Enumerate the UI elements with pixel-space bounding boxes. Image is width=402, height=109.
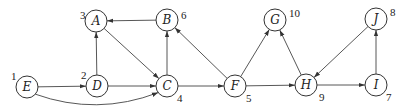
node-label: A xyxy=(91,14,101,28)
graph-canvas: E1D2A3B6C4F5G10H9I7J8 xyxy=(0,0,402,109)
order-number-label: 2 xyxy=(81,69,87,81)
order-number-label: 8 xyxy=(390,6,396,18)
node-H: H9 xyxy=(295,74,325,103)
edge-E-to-D xyxy=(38,86,86,87)
directed-graph-diagram: E1D2A3B6C4F5G10H9I7J8 xyxy=(0,0,402,109)
node-F: F5 xyxy=(224,75,252,104)
edge-J-to-H xyxy=(314,27,368,78)
node-A: A3 xyxy=(80,9,107,32)
node-label: C xyxy=(162,79,171,93)
edges-layer xyxy=(35,20,376,105)
node-label: I xyxy=(373,78,379,92)
order-number-label: 7 xyxy=(386,91,392,103)
order-number-label: 1 xyxy=(11,70,17,82)
edge-D-to-A xyxy=(96,32,97,75)
node-label: D xyxy=(91,79,102,93)
node-D: D2 xyxy=(81,69,108,97)
node-B: B6 xyxy=(156,9,187,31)
edge-F-to-H xyxy=(246,85,295,86)
node-label: E xyxy=(22,80,32,94)
order-number-label: 6 xyxy=(181,9,187,21)
edge-A-to-C xyxy=(104,28,159,78)
node-G: G10 xyxy=(264,7,301,31)
node-label: H xyxy=(300,78,312,92)
node-J: J8 xyxy=(365,6,396,30)
node-I: I7 xyxy=(365,74,392,103)
node-E: E1 xyxy=(11,70,38,98)
node-label: G xyxy=(270,13,280,27)
order-number-label: 5 xyxy=(246,92,252,104)
order-number-label: 10 xyxy=(289,7,301,19)
order-number-label: 9 xyxy=(319,91,325,103)
edge-H-to-G xyxy=(280,30,302,75)
edge-F-to-G xyxy=(241,29,270,76)
node-label: B xyxy=(162,13,172,27)
order-number-label: 4 xyxy=(177,92,183,104)
order-number-label: 3 xyxy=(80,9,86,21)
node-C: C4 xyxy=(156,75,183,104)
edge-F-to-B xyxy=(175,28,227,79)
edge-B-to-A xyxy=(107,20,156,21)
node-label: F xyxy=(230,79,240,93)
